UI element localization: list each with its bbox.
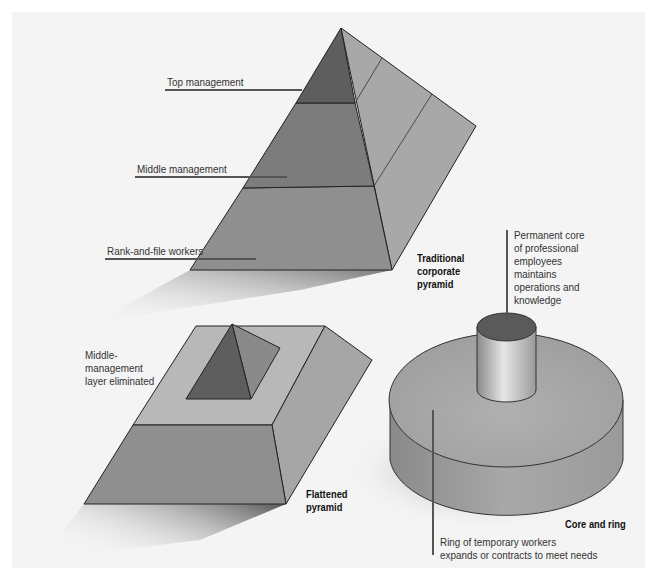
label-permanent-core: Permanent core of professional employees… [514, 229, 584, 307]
flattened-front-face [84, 425, 286, 504]
pyramid-shadow [95, 270, 392, 322]
caption-traditional-pyramid: Traditional corporate pyramid [417, 252, 464, 291]
label-middle-management-eliminated: Middle- management layer eliminated [85, 349, 154, 388]
tier-base [190, 186, 392, 270]
label-rank-and-file: Rank-and-file workers [107, 245, 203, 258]
caption-flattened-pyramid: Flattened pyramid [306, 488, 348, 514]
label-middle-management: Middle management [137, 163, 227, 176]
label-ring-of-temporary-workers: Ring of temporary workers expands or con… [440, 536, 597, 562]
tier-middle [243, 103, 374, 188]
caption-core-and-ring: Core and ring [565, 518, 626, 531]
label-top-management: Top management [167, 76, 244, 89]
flattened-shadow [40, 504, 286, 560]
